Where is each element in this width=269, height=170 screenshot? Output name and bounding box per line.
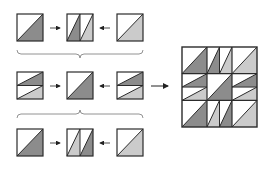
hstrips-unit (117, 72, 143, 99)
block-cell-hst-light (232, 47, 257, 74)
result-quilt-block (182, 47, 257, 127)
hst-unit-dark (67, 72, 93, 99)
vstrips-unit (67, 14, 93, 41)
hst-unit-light (117, 14, 143, 41)
block-cell-vstrips (207, 47, 232, 74)
row-top (17, 14, 143, 58)
block-cell-hst-dark (182, 47, 207, 74)
block-cell-hst-dark (207, 74, 232, 101)
hstrips-unit (17, 72, 43, 99)
brace-up (17, 110, 143, 118)
vstrips-unit (67, 129, 93, 156)
hst-unit-light (117, 129, 143, 156)
block-cell-hstrips (182, 74, 207, 101)
brace-down (17, 50, 143, 58)
block-cell-hst-dark (182, 100, 207, 127)
block-cell-hst-light (232, 100, 257, 127)
row-bottom (17, 110, 143, 156)
quilt-diagram (0, 0, 269, 170)
hst-unit-dark (17, 129, 43, 156)
hst-unit-dark (17, 14, 43, 41)
block-cell-hstrips (232, 74, 257, 101)
block-cell-vstrips (207, 100, 232, 127)
row-middle (17, 72, 168, 99)
